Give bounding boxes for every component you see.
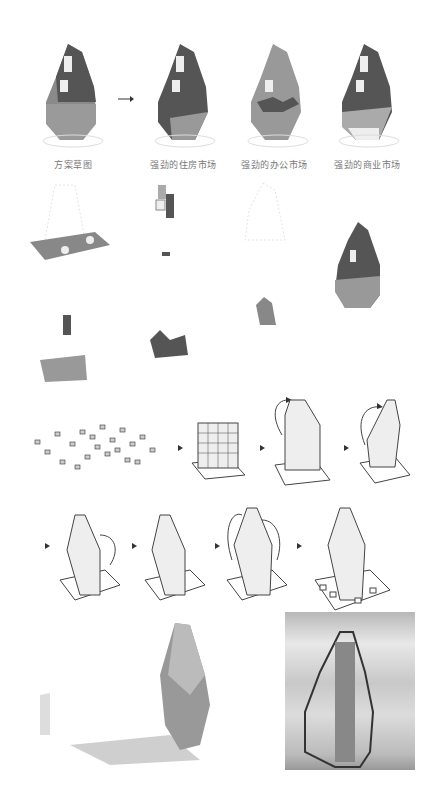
massing-model-sketch (38, 42, 108, 147)
carved-mass-5 (222, 500, 292, 610)
label-sketch: 方案草图 (54, 158, 92, 171)
carved-mass-2 (355, 395, 415, 485)
right-arrow-icon (118, 96, 134, 102)
massing-model-commercial (334, 42, 404, 147)
label-commercial: 强劲的商业市场 (334, 158, 401, 171)
cube-mass (190, 415, 250, 480)
layer-full-tower (330, 220, 390, 310)
process-arrow-icon (297, 543, 303, 549)
layer-housing-column (140, 180, 200, 260)
photomontage-image (285, 612, 415, 770)
layer-commercial-base (35, 310, 95, 390)
process-arrow-icon (178, 445, 184, 451)
process-arrow-icon (344, 445, 350, 451)
layer-office-ghost (235, 180, 295, 260)
render-aerial (20, 615, 280, 765)
final-mass-with-site (310, 500, 390, 615)
scattered-units (30, 420, 160, 475)
carved-mass-1 (270, 395, 335, 485)
label-office: 强劲的办公市场 (241, 158, 308, 171)
process-arrow-icon (132, 543, 138, 549)
aerial-render-image (20, 615, 280, 765)
render-photomontage (285, 612, 415, 770)
process-arrow-icon (45, 543, 51, 549)
layer-top-housing (250, 295, 290, 335)
layer-base-podium (25, 180, 115, 270)
process-arrow-icon (260, 445, 266, 451)
process-arrow-icon (215, 543, 221, 549)
label-housing: 强劲的住房市场 (150, 158, 217, 171)
layer-office-mid (140, 310, 200, 390)
massing-model-housing (150, 42, 220, 147)
carved-mass-4 (140, 510, 210, 605)
carved-mass-3 (55, 510, 125, 605)
massing-model-office (243, 42, 313, 147)
